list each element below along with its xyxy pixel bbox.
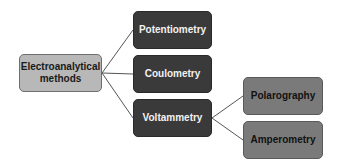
node-label-line2: methods <box>19 73 102 85</box>
node-label: Voltammetry <box>141 112 205 124</box>
node-label: Polarography <box>249 90 317 102</box>
node-label: Potentiometry <box>137 24 208 36</box>
node-amperometry: Amperometry <box>243 121 323 159</box>
edge-root-coulometry <box>102 73 133 74</box>
node-label-line1: Electroanalytical <box>19 61 102 73</box>
node-electroanalytical-methods: Electroanalytical methods <box>19 54 102 92</box>
node-potentiometry: Potentiometry <box>133 11 212 49</box>
edge-root-potentiometry <box>102 30 133 73</box>
node-coulometry: Coulometry <box>133 55 212 93</box>
node-label: Coulometry <box>143 68 203 80</box>
edge-voltammetry-polarography <box>212 96 243 118</box>
edge-voltammetry-amperometry <box>212 118 243 140</box>
node-polarography: Polarography <box>243 77 323 115</box>
node-voltammetry: Voltammetry <box>133 99 212 137</box>
edge-root-voltammetry <box>102 73 133 118</box>
node-label: Amperometry <box>248 134 317 146</box>
node-label: Electroanalytical methods <box>19 61 102 85</box>
diagram-canvas: Electroanalytical methods Potentiometry … <box>0 0 339 166</box>
